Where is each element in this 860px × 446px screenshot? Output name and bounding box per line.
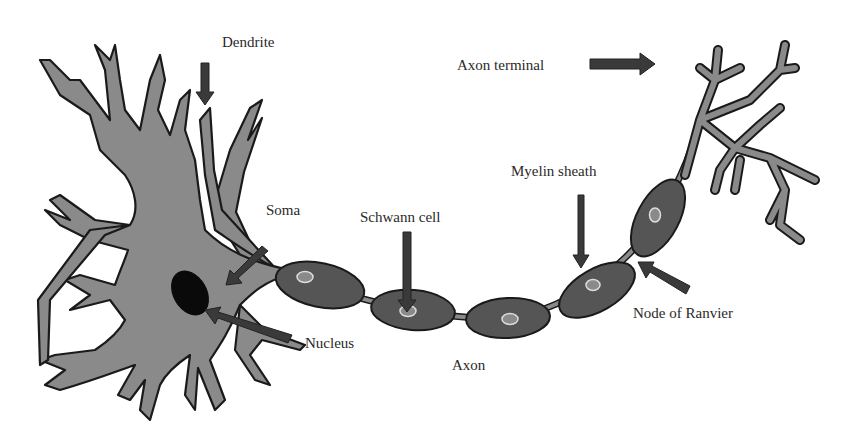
axon-label: Axon [452,358,485,373]
schwann-cell-label: Schwann cell [360,210,440,225]
soma-label: Soma [266,203,300,218]
schwann-cell-arrow [398,232,416,312]
neuron-diagram: Dendrite Soma Nucleus Schwann cell Axon … [0,0,860,446]
dendrite-arrow [196,63,214,105]
myelin-sheath-arrow [573,195,589,268]
axon-terminal-arrow [590,53,655,75]
nucleus-label: Nucleus [305,336,354,351]
myelin-sheath-label: Myelin sheath [511,164,596,179]
cell-body-and-dendrites [38,45,305,420]
node-of-ranvier-arrow [638,262,690,294]
axon-terminal-label: Axon terminal [457,58,544,73]
dendrite-label: Dendrite [222,35,274,50]
node-of-ranvier-label: Node of Ranvier [633,306,733,321]
